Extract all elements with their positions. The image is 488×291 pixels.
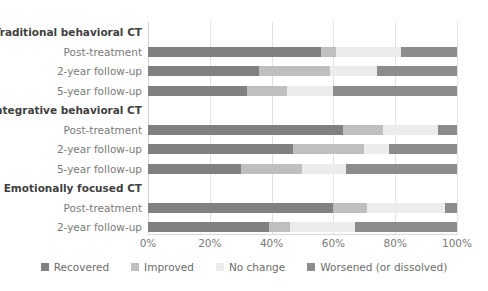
legend-swatch-icon	[41, 263, 49, 271]
legend-item[interactable]: Recovered	[41, 261, 109, 273]
bar-segment[interactable]	[330, 66, 376, 76]
chart-row: 5-year follow-up	[148, 81, 457, 101]
bar-segment[interactable]	[336, 47, 401, 57]
chart-row: 2-year follow-up	[148, 61, 457, 81]
bar-segment[interactable]	[148, 125, 343, 135]
legend-label: Improved	[144, 261, 194, 273]
x-axis-tick-label: 100%	[442, 237, 472, 249]
category-label: 5-year follow-up	[57, 159, 142, 179]
bar-segment[interactable]	[346, 164, 457, 174]
x-axis-tick-label: 80%	[384, 237, 407, 249]
bar-segment[interactable]	[438, 125, 457, 135]
stacked-bar[interactable]	[148, 86, 457, 96]
group-header-row: Integrative behavioral CT	[148, 100, 457, 120]
chart-row: 2-year follow-up	[148, 139, 457, 159]
x-axis-tick-label: 0%	[140, 237, 157, 249]
chart-row: 5-year follow-up	[148, 159, 457, 179]
chart-row: Post-treatment	[148, 198, 457, 218]
bar-segment[interactable]	[355, 222, 457, 232]
group-header-row: Traditional behavioral CT	[148, 22, 457, 42]
bar-segment[interactable]	[293, 144, 364, 154]
group-header-row: Emotionally focused CT	[148, 178, 457, 198]
gridline	[457, 22, 458, 234]
bar-segment[interactable]	[148, 222, 269, 232]
group-label: Integrative behavioral CT	[0, 100, 142, 120]
stacked-bar[interactable]	[148, 222, 457, 232]
bar-segment[interactable]	[383, 125, 439, 135]
chart-legend: RecoveredImprovedNo changeWorsened (or d…	[0, 261, 488, 273]
group-label: Traditional behavioral CT	[0, 22, 142, 42]
legend-swatch-icon	[216, 263, 224, 271]
stacked-bar[interactable]	[148, 47, 457, 57]
x-axis-tick-label: 20%	[198, 237, 221, 249]
bar-segment[interactable]	[269, 222, 291, 232]
bar-segment[interactable]	[401, 47, 457, 57]
legend-item[interactable]: No change	[216, 261, 285, 273]
bar-segment[interactable]	[148, 203, 333, 213]
bar-segment[interactable]	[148, 144, 293, 154]
bar-segment[interactable]	[241, 164, 303, 174]
category-label: 2-year follow-up	[57, 61, 142, 81]
bar-segment[interactable]	[148, 47, 321, 57]
category-label: Post-treatment	[64, 42, 142, 62]
stacked-bar[interactable]	[148, 164, 457, 174]
legend-swatch-icon	[131, 263, 139, 271]
category-label: 2-year follow-up	[57, 217, 142, 237]
stacked-bar-chart: Traditional behavioral CTPost-treatment2…	[0, 0, 488, 291]
bar-segment[interactable]	[287, 86, 333, 96]
bar-segment[interactable]	[321, 47, 336, 57]
legend-label: Worsened (or dissolved)	[320, 261, 447, 273]
stacked-bar[interactable]	[148, 125, 457, 135]
x-axis-line	[148, 234, 458, 235]
bar-segment[interactable]	[364, 144, 389, 154]
legend-swatch-icon	[307, 263, 315, 271]
bar-segment[interactable]	[148, 164, 241, 174]
legend-label: Recovered	[54, 261, 109, 273]
legend-item[interactable]: Improved	[131, 261, 194, 273]
bar-segment[interactable]	[377, 66, 457, 76]
category-label: 5-year follow-up	[57, 81, 142, 101]
bar-segment[interactable]	[445, 203, 457, 213]
chart-row: Post-treatment	[148, 120, 457, 140]
bar-segment[interactable]	[247, 86, 287, 96]
category-label: Post-treatment	[64, 120, 142, 140]
bar-segment[interactable]	[302, 164, 345, 174]
chart-row: Post-treatment	[148, 42, 457, 62]
plot-area: Traditional behavioral CTPost-treatment2…	[148, 22, 457, 234]
bar-segment[interactable]	[148, 86, 247, 96]
legend-label: No change	[229, 261, 285, 273]
bar-segment[interactable]	[333, 203, 367, 213]
group-label: Emotionally focused CT	[4, 178, 142, 198]
stacked-bar[interactable]	[148, 144, 457, 154]
bar-segment[interactable]	[333, 86, 457, 96]
bar-segment[interactable]	[290, 222, 355, 232]
category-label: 2-year follow-up	[57, 139, 142, 159]
x-axis-tick-labels: 0%20%40%60%80%100%	[148, 237, 457, 253]
bar-segment[interactable]	[259, 66, 330, 76]
category-label: Post-treatment	[64, 198, 142, 218]
stacked-bar[interactable]	[148, 66, 457, 76]
stacked-bar[interactable]	[148, 203, 457, 213]
bar-segment[interactable]	[367, 203, 444, 213]
legend-item[interactable]: Worsened (or dissolved)	[307, 261, 447, 273]
x-axis-tick-label: 60%	[322, 237, 345, 249]
bar-segment[interactable]	[343, 125, 383, 135]
x-axis-tick-label: 40%	[260, 237, 283, 249]
bar-segment[interactable]	[148, 66, 259, 76]
bar-segment[interactable]	[389, 144, 457, 154]
